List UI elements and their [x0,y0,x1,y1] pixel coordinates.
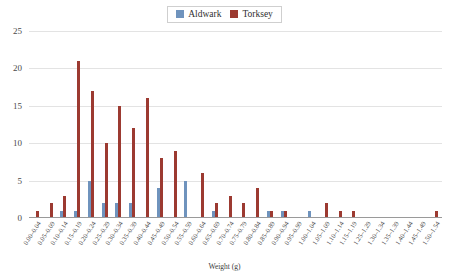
bar-torksey[interactable] [215,203,218,218]
bar-torksey[interactable] [229,196,232,218]
bar-group[interactable] [387,31,401,218]
bar-aldwark[interactable] [184,181,187,218]
bar-group[interactable] [222,31,236,218]
bar-torksey[interactable] [105,143,108,218]
y-axis-tick-label: 20 [13,64,22,73]
bar-torksey[interactable] [118,106,121,218]
bar-torksey[interactable] [50,203,53,218]
bar-torksey[interactable] [256,188,259,218]
x-axis-tick-slot: 1.50–1.54 [428,219,442,263]
y-axis-tick-label: 0 [18,214,23,223]
bar-group[interactable] [180,31,194,218]
legend-entry-torksey[interactable]: Torksey [230,9,272,19]
bar-group[interactable] [263,31,277,218]
bar-torksey[interactable] [77,61,80,218]
bar-series-container [29,31,442,218]
bar-group[interactable] [139,31,153,218]
bar-group[interactable] [84,31,98,218]
bar-chart: Aldwark Torksey 0510152025 0.00–0.040.05… [0,0,449,278]
legend-swatch-aldwark [176,10,184,18]
bar-group[interactable] [112,31,126,218]
legend-swatch-torksey [230,10,238,18]
bar-group[interactable] [346,31,360,218]
bar-group[interactable] [401,31,415,218]
bar-group[interactable] [125,31,139,218]
bar-group[interactable] [373,31,387,218]
legend-label-torksey: Torksey [242,9,272,19]
bar-group[interactable] [43,31,57,218]
plot-area [29,31,442,218]
x-axis-title: Weight (g) [0,262,449,271]
bar-group[interactable] [57,31,71,218]
legend-entry-aldwark[interactable]: Aldwark [176,9,221,19]
bar-group[interactable] [414,31,428,218]
y-axis-tick-label: 10 [13,139,22,148]
bar-group[interactable] [153,31,167,218]
bar-group[interactable] [291,31,305,218]
bar-group[interactable] [318,31,332,218]
legend-box: Aldwark Torksey [167,6,282,23]
y-axis-tick-label: 25 [13,27,22,36]
bar-torksey[interactable] [242,203,245,218]
bar-torksey[interactable] [201,173,204,218]
bar-torksey[interactable] [325,203,328,218]
y-axis-tick-label: 15 [13,101,22,110]
bar-group[interactable] [249,31,263,218]
bar-group[interactable] [208,31,222,218]
bar-torksey[interactable] [160,158,163,218]
bar-group[interactable] [167,31,181,218]
bar-torksey[interactable] [63,196,66,218]
y-axis: 0510152025 [0,31,26,218]
bar-torksey[interactable] [91,91,94,218]
bar-group[interactable] [332,31,346,218]
bar-torksey[interactable] [174,151,177,218]
bar-torksey[interactable] [132,128,135,218]
bar-group[interactable] [304,31,318,218]
legend-label-aldwark: Aldwark [188,9,221,19]
bar-group[interactable] [235,31,249,218]
bar-group[interactable] [359,31,373,218]
bar-group[interactable] [29,31,43,218]
bar-group[interactable] [194,31,208,218]
chart-legend: Aldwark Torksey [0,6,449,23]
bar-torksey[interactable] [146,98,149,218]
bar-group[interactable] [98,31,112,218]
bar-group[interactable] [277,31,291,218]
bar-group[interactable] [70,31,84,218]
y-axis-tick-label: 5 [18,176,23,185]
x-axis-line [29,217,442,218]
bar-group[interactable] [428,31,442,218]
x-axis-tick-labels: 0.00–0.040.05–0.090.10–0.140.15–0.190.20… [29,219,442,263]
